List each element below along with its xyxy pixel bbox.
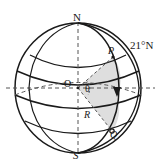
label-angle-theta: θ [85,84,90,94]
label-north-pole: N [73,12,81,23]
label-latitude-21n: 21°N [130,40,153,51]
label-south-pole: S [73,150,79,161]
sphere-latitude-diagram: N S O P Q θ R 21°N [0,0,163,166]
globe-illustration [0,0,163,166]
label-radius-r: R [84,110,90,120]
center-o-marker [77,87,79,89]
label-center-o: O [64,79,71,89]
label-point-p: P [108,46,114,56]
label-point-q: Q [110,130,117,140]
